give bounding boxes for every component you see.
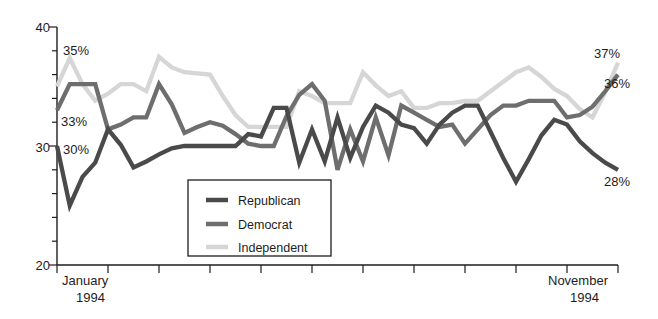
chart-container: 40 30 20 35% 33% 30% 37% 36% 28% January… (0, 0, 658, 319)
legend-label-republican: Republican (238, 194, 301, 208)
y-tick-label-20: 20 (36, 258, 50, 273)
series-line-republican (57, 106, 618, 206)
series-lines (57, 57, 618, 206)
x-axis-start-label-month: January (62, 273, 109, 288)
annotation-republican-start: 30% (63, 142, 89, 157)
x-axis-start-label-year: 1994 (76, 290, 105, 305)
annotation-democrat-start: 33% (61, 114, 87, 129)
legend-label-independent: Independent (238, 241, 308, 255)
annotation-democrat-end: 36% (604, 76, 630, 91)
y-tick-label-30: 30 (36, 140, 50, 155)
x-axis-ticks (57, 265, 618, 273)
y-axis-ticks (49, 27, 57, 265)
legend-label-democrat: Democrat (238, 218, 293, 232)
annotation-republican-end: 28% (604, 174, 630, 189)
chart-legend: Republican Democrat Independent (188, 180, 331, 256)
x-axis-end-label-year: 1994 (570, 290, 599, 305)
line-chart: 40 30 20 35% 33% 30% 37% 36% 28% January… (0, 0, 658, 319)
annotation-independent-end: 37% (594, 46, 620, 61)
y-tick-label-40: 40 (36, 20, 50, 35)
x-axis-end-label-month: November (548, 273, 609, 288)
annotation-independent-start: 35% (63, 43, 89, 58)
